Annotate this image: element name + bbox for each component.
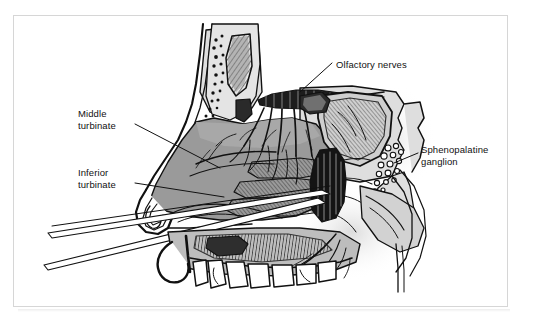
- label-sphenopalatine-ganglion: Sphenopalatine ganglion: [421, 144, 488, 167]
- label-olfactory-nerves: Olfactory nerves: [336, 59, 407, 71]
- label-inferior-turbinate: Inferior turbinate: [78, 167, 116, 190]
- label-middle-turbinate: Middle turbinate: [78, 108, 116, 131]
- teeth-row: [193, 260, 336, 288]
